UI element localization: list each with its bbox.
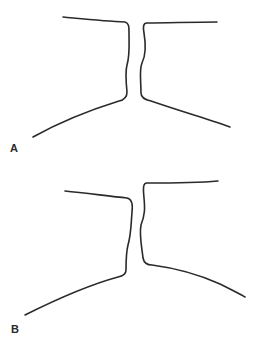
panel-b-label: B <box>11 323 19 335</box>
panel-a-left-outline <box>33 17 129 137</box>
panel-b-right-outline <box>140 181 245 297</box>
panel-a-label: A <box>10 142 18 154</box>
panel-b-left-outline <box>25 191 132 315</box>
diagram-canvas <box>0 0 259 349</box>
panel-a-right-outline <box>140 22 230 127</box>
